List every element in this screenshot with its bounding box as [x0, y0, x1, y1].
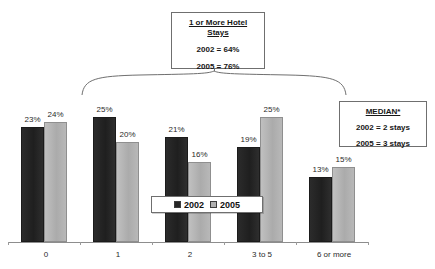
bar-value-label: 15%: [335, 155, 351, 165]
bar-pair: 19% 25%: [237, 82, 287, 242]
x-axis-tick: [368, 242, 369, 245]
x-tick-label-3: 3 to 5: [237, 250, 287, 260]
x-tick-label-1: 1: [93, 250, 143, 260]
bar-2005-cat0[interactable]: 24%: [44, 122, 67, 242]
bar-value-label: 20%: [119, 130, 135, 140]
bar-value-label: 25%: [96, 105, 112, 115]
bar-2002-cat3[interactable]: 19%: [237, 147, 260, 242]
x-tick-label-0: 0: [21, 250, 71, 260]
bar-value-label: 13%: [312, 165, 328, 175]
legend-item-2002[interactable]: 2002: [174, 200, 204, 210]
bar-value-label: 16%: [191, 150, 207, 160]
callout-median-2005: 2005 = 3 stays: [340, 139, 426, 149]
callout-hotel-title-line2: Stays: [172, 28, 264, 38]
legend-swatch-icon-2002: [174, 201, 181, 208]
bar-value-label: 23%: [24, 115, 40, 125]
bar-pair: 23% 24%: [21, 82, 71, 242]
x-axis-tick: [8, 242, 9, 245]
bar-group-1: 25% 20%: [93, 82, 143, 242]
bar-value-label: 21%: [168, 125, 184, 135]
callout-median: MEDIAN* 2002 = 2 stays 2005 = 3 stays: [339, 101, 427, 147]
bar-2002-cat2[interactable]: 21%: [165, 137, 188, 242]
bar-2002-cat4[interactable]: 13%: [309, 177, 332, 242]
x-tick-label-4: 6 or more: [309, 250, 359, 260]
bar-2002-cat0[interactable]: 23%: [21, 127, 44, 242]
bar-pair: 21% 16%: [165, 82, 215, 242]
legend-label-2002: 2002: [184, 200, 204, 210]
bar-2005-cat4[interactable]: 15%: [332, 167, 355, 242]
x-axis-tick: [296, 242, 297, 245]
x-tick-label-2: 2: [165, 250, 215, 260]
callout-median-2002: 2002 = 2 stays: [340, 123, 426, 133]
bar-group-2: 21% 16%: [165, 82, 215, 242]
bar-group-0: 23% 24%: [21, 82, 71, 242]
x-axis-tick: [152, 242, 153, 245]
bar-value-label: 24%: [47, 110, 63, 120]
bar-chart: 23% 24% 25% 20% 21%: [0, 0, 435, 269]
bar-2002-cat1[interactable]: 25%: [93, 117, 116, 242]
bar-group-3: 19% 25%: [237, 82, 287, 242]
legend-swatch-icon-2005: [210, 201, 217, 208]
bar-value-label: 19%: [240, 135, 256, 145]
brace-connector-icon: [80, 70, 350, 96]
x-axis-line: [8, 242, 368, 243]
legend-label-2005: 2005: [220, 200, 240, 210]
bar-2005-cat1[interactable]: 20%: [116, 142, 139, 242]
bar-pair: 25% 20%: [93, 82, 143, 242]
callout-hotel-2002: 2002 = 64%: [172, 45, 264, 55]
bar-value-label: 25%: [263, 105, 279, 115]
chart-legend: 2002 2005: [151, 196, 263, 213]
callout-hotel-2005: 2005 = 76%: [172, 62, 264, 72]
callout-hotel-title-line1: 1 or More Hotel: [172, 18, 264, 28]
x-axis-tick: [224, 242, 225, 245]
callout-median-title: MEDIAN*: [340, 107, 426, 117]
bar-2005-cat3[interactable]: 25%: [260, 117, 283, 242]
callout-hotel-stays: 1 or More Hotel Stays 2002 = 64% 2005 = …: [171, 12, 265, 69]
legend-item-2005[interactable]: 2005: [210, 200, 240, 210]
x-axis-tick: [80, 242, 81, 245]
